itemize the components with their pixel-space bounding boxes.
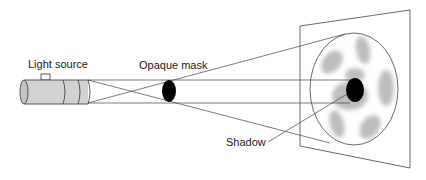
light-source — [20, 74, 90, 104]
blur-blob — [378, 70, 394, 106]
opaque-mask-label: Opaque mask — [139, 59, 208, 71]
shadow-diagram: Light source Opaque mask Shadow — [0, 0, 426, 180]
opaque-mask — [162, 80, 176, 102]
light-source-body — [24, 80, 88, 104]
light-source-end — [20, 80, 28, 104]
light-source-switch — [41, 74, 50, 80]
light-source-label: Light source — [28, 58, 88, 70]
shadow — [346, 78, 364, 102]
shadow-label: Shadow — [226, 136, 266, 148]
ray — [88, 80, 330, 143]
